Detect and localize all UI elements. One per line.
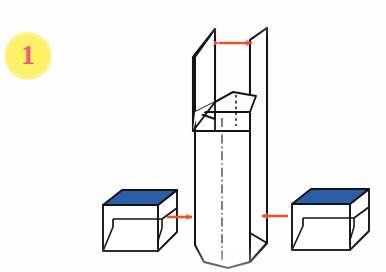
right-box-front-face <box>292 204 350 250</box>
left-small-box <box>103 190 177 251</box>
left-box-front-face <box>103 205 158 251</box>
central-tall-prism <box>193 28 267 268</box>
prism-right-face <box>250 28 267 262</box>
diagram-canvas: 1 <box>0 0 386 272</box>
right-small-box <box>292 189 369 250</box>
assembly-diagram-svg <box>0 0 386 272</box>
